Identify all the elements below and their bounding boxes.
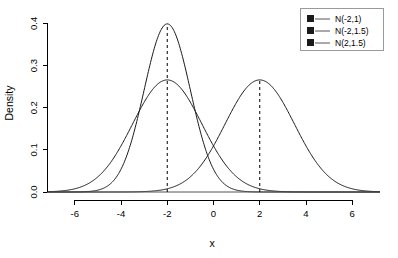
legend: N(-2,1)N(-2,1.5)N(2,1.5): [300, 8, 383, 50]
legend-label-1: N(-2,1.5): [335, 26, 369, 36]
x-axis-title: x: [209, 237, 215, 249]
legend-swatch-2: [307, 39, 314, 46]
density-curve-1: [47, 80, 380, 192]
y-tick-label: 0.3: [28, 59, 39, 72]
y-tick-label: 0.1: [28, 143, 39, 156]
legend-label-2: N(2,1.5): [335, 38, 366, 48]
mean-reference-lines: [167, 24, 260, 192]
y-tick-label: 0.4: [28, 17, 39, 30]
y-tick-label: 0.0: [28, 185, 39, 198]
x-tick-label: -4: [117, 208, 125, 219]
legend-label-0: N(-2,1): [335, 14, 362, 24]
y-axis-title: Density: [3, 85, 15, 121]
y-tick-label: 0.2: [28, 101, 39, 114]
x-tick-label: 2: [257, 208, 262, 219]
legend-swatch-1: [307, 27, 314, 34]
x-tick-label: 4: [303, 208, 308, 219]
x-tick-label: 0: [211, 208, 216, 219]
y-axis: 0.00.10.20.30.4: [28, 17, 47, 199]
density-curve-2: [47, 80, 380, 192]
x-tick-label: -6: [71, 208, 79, 219]
x-tick-label: -2: [163, 208, 171, 219]
legend-swatch-0: [307, 15, 314, 22]
density-plot-figure: 0.00.10.20.30.4 -6-4-20246 Density x N(-…: [0, 0, 398, 258]
x-axis: -6-4-20246: [71, 200, 355, 219]
plot-canvas: 0.00.10.20.30.4 -6-4-20246 Density x N(-…: [0, 0, 398, 258]
x-tick-label: 6: [350, 208, 355, 219]
